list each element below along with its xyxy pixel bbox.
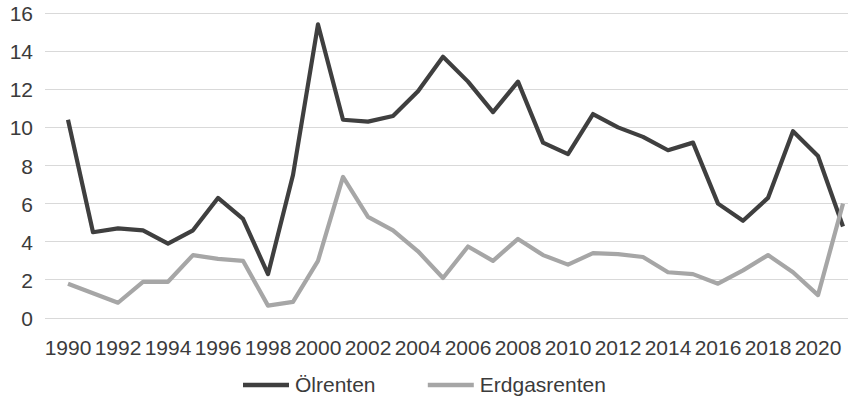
x-axis-tick-label: 2018 [745, 336, 792, 359]
x-axis-tick-label: 1992 [95, 336, 142, 359]
x-axis-tick-label: 1990 [45, 336, 92, 359]
x-axis-tick-label: 2016 [695, 336, 742, 359]
y-axis-tick-label: 4 [21, 231, 33, 254]
x-axis-tick-label: 1994 [145, 336, 192, 359]
x-axis-tick-labels: 1990199219941996199820002002200420062008… [45, 336, 842, 359]
y-axis-tick-label: 2 [21, 269, 33, 292]
x-axis-tick-label: 2014 [645, 336, 692, 359]
x-axis-tick-label: 1996 [195, 336, 242, 359]
x-axis-tick-label: 2006 [445, 336, 492, 359]
chart-canvas: 0246810121416 19901992199419961998200020… [0, 0, 850, 402]
x-axis-tick-label: 2008 [495, 336, 542, 359]
y-axis-tick-label: 10 [10, 116, 33, 139]
series-line-ölrenten [68, 24, 843, 274]
y-axis-tick-label: 6 [21, 193, 33, 216]
chart-legend: ÖlrentenErdgasrenten [243, 373, 606, 396]
x-axis-tick-label: 2010 [545, 336, 592, 359]
x-axis-tick-label: 2020 [795, 336, 842, 359]
legend-label: Erdgasrenten [480, 373, 606, 396]
legend-label: Ölrenten [295, 373, 376, 396]
x-axis-tick-label: 2000 [295, 336, 342, 359]
x-axis-tick-label: 2002 [345, 336, 392, 359]
y-axis-tick-label: 14 [10, 40, 34, 63]
x-axis-tick-label: 2004 [395, 336, 442, 359]
y-axis-tick-label: 0 [21, 307, 33, 330]
y-axis-tick-label: 12 [10, 78, 33, 101]
y-axis-tick-labels: 0246810121416 [10, 2, 34, 330]
y-axis-tick-label: 16 [10, 2, 33, 25]
x-axis-tick-label: 2012 [595, 336, 642, 359]
x-axis-tick-label: 1998 [245, 336, 292, 359]
line-chart: 0246810121416 19901992199419961998200020… [0, 0, 850, 402]
y-axis-tick-label: 8 [21, 155, 33, 178]
